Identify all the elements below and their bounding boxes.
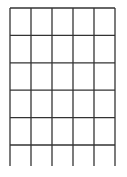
grid-diagram [0, 0, 127, 177]
